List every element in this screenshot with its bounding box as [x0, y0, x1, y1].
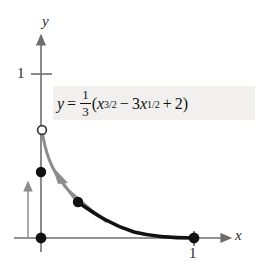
equation-term3: 2 [175, 95, 183, 113]
point-at-x-one-marker [189, 233, 200, 244]
direction-arrow-on-curve [52, 166, 68, 184]
x-axis-tick-label-1: 1 [189, 246, 197, 261]
equation-minus-sign: − [117, 95, 132, 113]
y-axis-label: y [42, 14, 49, 29]
y-axis-tick-label-1: 1 [17, 66, 25, 81]
equation-close-paren: ) [183, 95, 188, 113]
equation-lhs: y [57, 95, 64, 113]
x-axis-label: x [235, 228, 242, 243]
equation-equals-sign: = [64, 95, 79, 113]
fraction-numerator: 1 [80, 88, 91, 101]
point-on-y-axis-marker [36, 167, 46, 177]
equation-fraction-one-third: 1 3 [80, 88, 91, 118]
equation-term2-exponent: 1/2 [147, 99, 160, 110]
point-branch-join-marker [73, 197, 83, 207]
equation-term1-exponent: 3/2 [104, 99, 117, 110]
origin-point-marker [36, 233, 47, 244]
equation-plus-sign: + [160, 95, 175, 113]
equation-label: y = 1 3 ( x 3/2 − 3 x 1/2 + 2 ) [57, 88, 255, 120]
plot-canvas [0, 0, 264, 280]
fraction-denominator: 3 [80, 105, 91, 118]
equation-term1-base: x [97, 95, 104, 113]
equation-term2-base: x [140, 95, 147, 113]
y-intercept-hole-marker [38, 126, 47, 135]
curve-highlighted-branch [78, 202, 194, 238]
math-figure: y x 1 1 y = 1 3 ( x 3/2 − 3 x 1/2 + 2 ) [0, 0, 264, 280]
curve-secondary-branch [42, 130, 78, 202]
equation-term2-coefficient: 3 [132, 95, 140, 113]
